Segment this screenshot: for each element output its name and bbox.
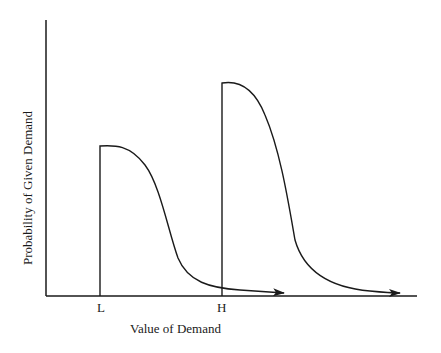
tick-label-high: H: [217, 300, 226, 316]
y-axis-label: Probability of Given Demand: [20, 111, 36, 265]
curve-low-demand: [100, 146, 284, 296]
x-axis-label: Value of Demand: [130, 321, 221, 337]
curve-high-demand: [222, 82, 400, 296]
tick-label-low: L: [97, 300, 105, 316]
